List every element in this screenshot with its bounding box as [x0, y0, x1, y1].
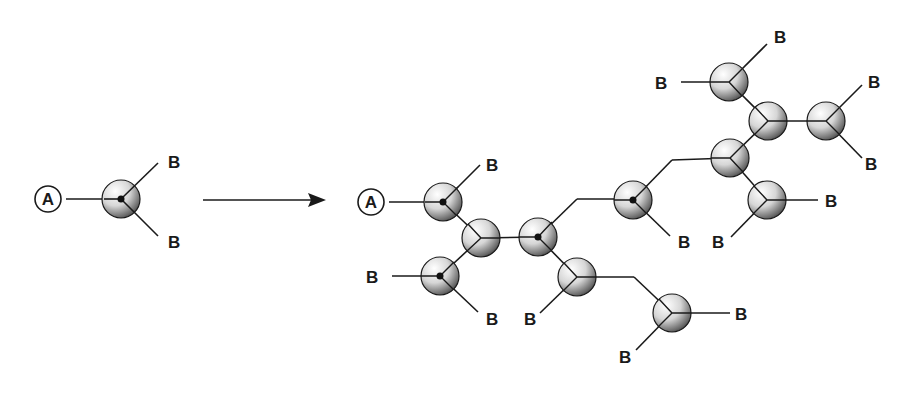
sphere-1	[424, 183, 462, 221]
sphere-9	[710, 63, 748, 101]
b-label: B	[486, 310, 498, 329]
b-label: B	[865, 155, 877, 174]
sphere-3	[519, 218, 557, 256]
sphere-12	[653, 294, 691, 332]
b-label: B	[655, 74, 667, 93]
hyperbranched-polymer: A	[358, 28, 880, 367]
sphere-5	[558, 258, 596, 296]
core-dot	[118, 196, 125, 203]
sphere-4	[421, 257, 459, 295]
monomer-b-label-bottom: B	[168, 233, 180, 252]
sphere-6	[614, 181, 652, 219]
monomer-b-label-top: B	[168, 153, 180, 172]
b-label: B	[524, 310, 536, 329]
b-label: B	[868, 73, 880, 92]
b-label: B	[678, 233, 690, 252]
b-label: B	[619, 348, 631, 367]
b-label: B	[735, 305, 747, 324]
reaction-arrow	[203, 193, 326, 207]
diagram-canvas: A B B A	[0, 0, 909, 393]
sphere-2	[462, 219, 500, 257]
monomer: A B B	[35, 153, 180, 252]
b-label: B	[825, 192, 837, 211]
sphere-8	[748, 181, 786, 219]
sphere-11	[807, 102, 845, 140]
sphere-10	[749, 102, 787, 140]
monomer-a-label: A	[42, 190, 54, 209]
ab2-polymerization-diagram: A B B A	[0, 0, 909, 393]
b-label: B	[712, 233, 724, 252]
b-label: B	[774, 28, 786, 47]
b-label: B	[486, 156, 498, 175]
polymer-a-label: A	[365, 193, 377, 212]
b-label: B	[366, 268, 378, 287]
sphere-7	[711, 139, 749, 177]
